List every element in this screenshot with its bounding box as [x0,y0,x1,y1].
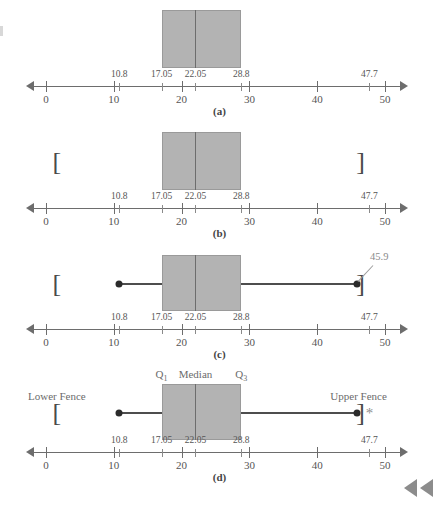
axis-arrow-left-icon [26,203,34,213]
axis-tick-major [182,324,183,335]
axis-tick-minor [241,326,242,334]
axis-tick-label: 10 [108,215,119,227]
axis-tick-minor [162,83,163,91]
axis-tick-label: 30 [244,336,255,348]
panel-b: [ ] 0102030405010.817.0522.0528.847.7 (b… [0,122,439,247]
boxplot-median-line [195,384,196,440]
panel-a-caption: (a) [0,105,439,117]
axis-tick-major [317,447,318,458]
axis-tick-label: 40 [312,336,323,348]
right-whisker [241,283,357,285]
navigation-arrows[interactable] [404,479,433,497]
axis-tick-label: 50 [380,336,391,348]
boxplot-median-line [195,132,196,190]
panel-c-axis: 0102030405010.817.0522.0528.847.7 [0,315,439,349]
summary-value-label: 10.8 [111,69,128,79]
panel-a-axis: 0102030405010.817.0522.0528.847.7 [0,72,439,106]
panel-b-caption: (b) [0,227,439,239]
axis-tick-major [385,447,386,458]
lower-fence-bracket: [ [53,400,62,426]
left-whisker [119,412,161,414]
panel-b-axis: 0102030405010.817.0522.0528.847.7 [0,194,439,228]
axis-tick-minor [369,205,370,213]
axis-arrow-left-icon [26,447,34,457]
boxplot-median-line [195,10,196,68]
axis-tick-label: 0 [43,215,49,227]
axis-arrow-left-icon [26,81,34,91]
axis-tick-minor [162,449,163,457]
axis-tick-major [46,324,47,335]
summary-value-label: 28.8 [233,69,250,79]
axis-tick-label: 20 [176,93,187,105]
axis-tick-label: 10 [108,459,119,471]
axis-line [31,329,406,330]
summary-value-label: 47.7 [361,191,378,201]
summary-value-label: 28.8 [233,191,250,201]
summary-value-label: 22.05 [185,191,206,201]
axis-tick-label: 20 [176,215,187,227]
axis-tick-major [182,203,183,214]
outlier-marker: * [366,405,374,422]
boxplot-median-line [195,255,196,311]
axis-tick-label: 50 [380,93,391,105]
left-whisker-endpoint [116,281,123,288]
axis-tick-label: 30 [244,459,255,471]
axis-tick-minor [119,326,120,334]
axis-tick-minor [369,449,370,457]
summary-value-label: 22.05 [185,69,206,79]
axis-tick-label: 30 [244,215,255,227]
panel-d-caption: (d) [0,471,439,483]
previous-arrow-icon[interactable] [404,479,417,497]
axis-tick-minor [195,449,196,457]
lower-fence-bracket: [ [53,149,62,175]
axis-tick-major [114,324,115,335]
axis-tick-minor [195,205,196,213]
boxplot-box [162,10,242,68]
summary-value-label: 17.05 [151,312,172,322]
axis-tick-major [317,81,318,92]
axis-tick-minor [119,205,120,213]
axis-tick-major [249,81,250,92]
summary-value-label: 10.8 [111,191,128,201]
axis-tick-major [114,447,115,458]
axis-line [31,86,406,87]
axis-tick-major [46,81,47,92]
axis-arrow-right-icon [400,324,408,334]
summary-value-label: 17.05 [151,191,172,201]
axis-tick-major [182,81,183,92]
axis-tick-major [114,203,115,214]
axis-tick-major [249,447,250,458]
axis-arrow-right-icon [400,203,408,213]
median-label: Median [179,368,213,380]
panel-d-axis: 0102030405010.817.0522.0528.847.7 [0,438,439,472]
right-whisker [241,412,357,414]
axis-tick-label: 20 [176,459,187,471]
summary-value-label: 47.7 [361,69,378,79]
q1-label: Q1 [156,368,168,383]
q3-label: Q3 [235,368,247,383]
axis-tick-label: 40 [312,93,323,105]
previous-fast-arrow-icon[interactable] [420,479,433,497]
boxplot-box [162,384,242,440]
axis-tick-major [182,447,183,458]
axis-tick-major [385,81,386,92]
axis-tick-major [46,203,47,214]
lower-fence-bracket: [ [53,271,62,297]
upper-fence-bracket: ] [356,149,365,175]
axis-tick-label: 50 [380,215,391,227]
axis-tick-minor [162,326,163,334]
axis-arrow-right-icon [400,81,408,91]
axis-line [31,208,406,209]
panel-c-caption: (c) [0,348,439,360]
left-whisker-endpoint [116,410,123,417]
axis-tick-minor [241,205,242,213]
axis-tick-label: 40 [312,215,323,227]
axis-tick-label: 10 [108,93,119,105]
summary-value-label: 10.8 [111,312,128,322]
axis-tick-major [46,447,47,458]
axis-tick-minor [241,449,242,457]
left-whisker [119,283,161,285]
axis-tick-minor [369,83,370,91]
axis-tick-label: 30 [244,93,255,105]
axis-tick-minor [241,83,242,91]
